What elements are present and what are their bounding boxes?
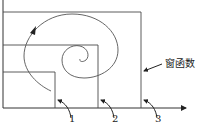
window-3-outline [3,12,141,108]
window-2-label: 2 [112,114,118,124]
window-1-outline [3,72,55,108]
window-3-label: 3 [155,114,161,124]
window-2-outline [3,45,98,108]
window-1-label: 1 [69,114,75,124]
window-function-label: 窗函数 [165,59,195,69]
spiral-arrow-icon [30,26,36,35]
window-label-pointer-icon [144,64,162,71]
spiral-curve [24,14,118,91]
